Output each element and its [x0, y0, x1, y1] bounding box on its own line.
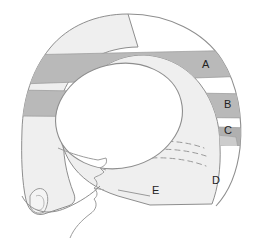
label-d: D	[212, 174, 220, 186]
anatomical-diagram: A B C D E	[0, 0, 262, 241]
label-a: A	[202, 58, 210, 70]
ear-shape	[30, 189, 48, 214]
label-c: C	[224, 124, 232, 136]
label-b: B	[224, 98, 231, 110]
label-e: E	[152, 184, 159, 196]
